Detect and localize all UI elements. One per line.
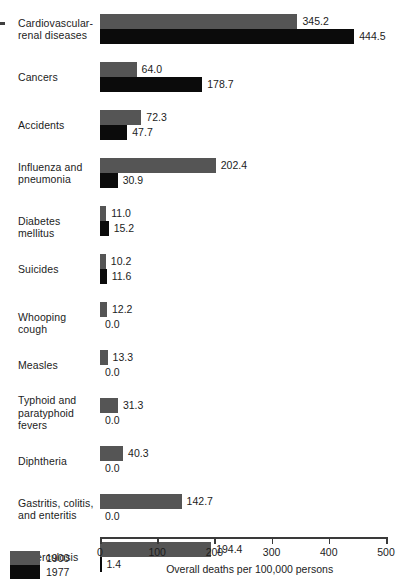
x-axis-tick xyxy=(329,537,331,544)
bar-value-1977: 0.0 xyxy=(105,413,120,428)
category-label: Cancers xyxy=(18,71,96,84)
bar-value-1977: 0.0 xyxy=(105,461,120,476)
bar-value-1900: 72.3 xyxy=(146,110,166,125)
bar-value-1900: 11.0 xyxy=(111,206,131,221)
bar-1977 xyxy=(100,125,127,140)
category-label-line: and enteritis xyxy=(18,509,96,522)
x-axis-tick xyxy=(386,537,388,544)
category-label-line: Cancers xyxy=(18,71,96,84)
bar-1900 xyxy=(100,110,141,125)
category-label-line: Influenza and xyxy=(18,161,96,174)
bar-value-1900: 13.3 xyxy=(113,350,133,365)
x-axis-title: Overall deaths per 100,000 persons xyxy=(166,563,333,575)
bar-1900 xyxy=(100,398,118,413)
category-label: Gastritis, colitis,and enteritis xyxy=(18,497,96,522)
x-axis-line xyxy=(100,537,386,539)
category-label-line: Diabetes mellitus xyxy=(18,215,96,240)
bar-value-1900: 40.3 xyxy=(128,446,148,461)
bar-value-1977: 444.5 xyxy=(359,29,385,44)
bar-value-1977: 15.2 xyxy=(114,221,134,236)
category-label-line: paratyphoid xyxy=(18,407,96,420)
bar-1977 xyxy=(100,173,118,188)
bar-1900 xyxy=(100,302,107,317)
bar-value-1977: 47.7 xyxy=(132,125,152,140)
x-axis-tick-label: 100 xyxy=(148,546,166,558)
bar-value-1900: 31.3 xyxy=(123,398,143,413)
bar-1900 xyxy=(100,14,297,29)
bar-value-1900: 10.2 xyxy=(111,254,131,269)
category-label-line: Diphtheria xyxy=(18,455,96,468)
bar-value-1977: 0.0 xyxy=(105,509,120,524)
category-label-line: Accidents xyxy=(18,119,96,132)
bar-1900 xyxy=(100,494,182,509)
legend-swatch-1900 xyxy=(10,551,40,565)
bar-1977 xyxy=(100,77,202,92)
bar-1900 xyxy=(100,206,106,221)
category-label: Diphtheria xyxy=(18,455,96,468)
category-label-line: renal diseases xyxy=(18,29,96,42)
bar-value-1977: 0.0 xyxy=(105,365,120,380)
bar-1900 xyxy=(100,446,123,461)
bar-1900 xyxy=(100,350,108,365)
category-label: Cardiovascular-renal diseases xyxy=(18,17,96,42)
category-label: Whooping cough xyxy=(18,311,96,336)
x-axis-tick-label: 0 xyxy=(97,546,103,558)
category-label-line: Gastritis, colitis, xyxy=(18,497,96,510)
x-axis-tick-label: 200 xyxy=(206,546,224,558)
legend-label-1900: 1900 xyxy=(46,551,69,565)
x-axis-tick-label: 300 xyxy=(263,546,281,558)
category-label: Typhoid andparatyphoidfevers xyxy=(18,394,96,432)
x-axis-tick xyxy=(100,537,102,544)
bar-1900 xyxy=(100,158,216,173)
chart-legend: 1900 1977 xyxy=(10,549,90,581)
category-label-line: Cardiovascular- xyxy=(18,17,96,30)
category-label-line: Measles xyxy=(18,359,96,372)
chart-plot-area: Cardiovascular-renal diseases345.2444.5C… xyxy=(0,0,403,533)
bar-value-1977: 0.0 xyxy=(105,317,120,332)
bar-1977 xyxy=(100,269,107,284)
bar-chart: Cardiovascular-renal diseases345.2444.5C… xyxy=(0,0,403,588)
legend-swatch xyxy=(10,551,40,579)
bar-1900 xyxy=(100,254,106,269)
bar-value-1900: 12.2 xyxy=(112,302,132,317)
category-label-line: Whooping cough xyxy=(18,311,96,336)
bar-1900 xyxy=(100,62,137,77)
x-axis-tick xyxy=(272,537,274,544)
bar-value-1977: 178.7 xyxy=(207,77,233,92)
x-axis-tick xyxy=(214,537,216,544)
category-label-line: pneumonia xyxy=(18,173,96,186)
category-label-line: fevers xyxy=(18,419,96,432)
bar-value-1900: 202.4 xyxy=(221,158,247,173)
bar-value-1977: 11.6 xyxy=(112,269,132,284)
category-label: Suicides xyxy=(18,263,96,276)
bar-value-1900: 142.7 xyxy=(187,494,213,509)
category-label: Measles xyxy=(18,359,96,372)
category-label-line: Typhoid and xyxy=(18,394,96,407)
x-axis-tick xyxy=(157,537,159,544)
bar-value-1977: 30.9 xyxy=(123,173,143,188)
category-label: Diabetes mellitus xyxy=(18,215,96,240)
bar-value-1900: 345.2 xyxy=(302,14,328,29)
category-label: Influenza andpneumonia xyxy=(18,161,96,186)
x-axis-tick-label: 500 xyxy=(377,546,395,558)
legend-swatch-1977 xyxy=(10,565,40,579)
bar-value-1900: 64.0 xyxy=(142,62,162,77)
bar-1977 xyxy=(100,29,354,44)
bar-1977 xyxy=(100,221,109,236)
category-label: Accidents xyxy=(18,119,96,132)
legend-label-1977: 1977 xyxy=(46,565,69,579)
x-axis-tick-label: 400 xyxy=(320,546,338,558)
category-label-line: Suicides xyxy=(18,263,96,276)
x-axis: 0100200300400500 Overall deaths per 100,… xyxy=(100,537,386,581)
